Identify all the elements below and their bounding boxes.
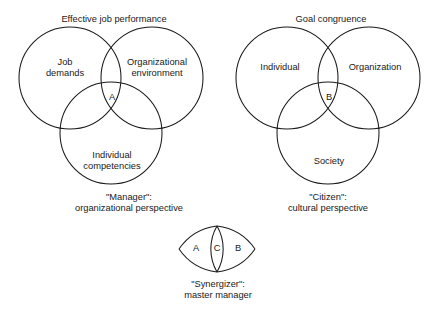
left-label-job-demands: Job demands [46, 57, 84, 79]
left-diagram-caption-line1: "Manager": [106, 192, 152, 203]
right-label-individual: Individual [260, 62, 299, 73]
right-intersection-letter-b: B [326, 92, 332, 103]
right-circle-organization [318, 27, 420, 129]
right-diagram-title: Goal congruence [296, 14, 367, 25]
bottom-diagram-caption-line1: "Synergizer": [191, 279, 245, 290]
left-intersection-letter-a: A [109, 92, 115, 103]
left-label-individual-competencies: Individual competencies [83, 150, 140, 172]
right-label-society: Society [314, 156, 345, 167]
lens-letter-b: B [235, 243, 241, 254]
lens-letter-a: A [193, 243, 199, 254]
right-circle-individual [236, 27, 338, 129]
left-label-organizational-environment: Organizational environment [127, 57, 187, 79]
diagram-vector-layer [0, 0, 434, 320]
lens-letter-c: C [214, 243, 221, 254]
right-diagram-caption-line2: cultural perspective [288, 203, 368, 214]
right-diagram-caption-line1: "Citizen": [309, 192, 347, 203]
bottom-diagram-caption-line2: master manager [184, 290, 252, 301]
venn-figure: Effective job performance Job demands Or… [0, 0, 434, 320]
left-diagram-caption-line2: organizational perspective [75, 203, 183, 214]
left-diagram-title: Effective job performance [61, 14, 166, 25]
right-label-organization: Organization [349, 62, 402, 73]
